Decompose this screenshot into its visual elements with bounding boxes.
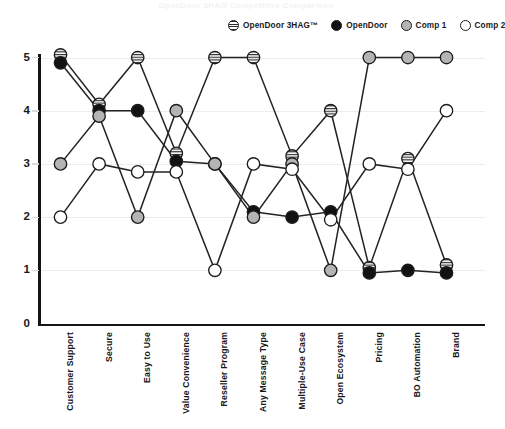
- data-point[interactable]: [247, 211, 259, 223]
- x-axis-tick-label: Open Ecosystem: [335, 332, 345, 405]
- data-point[interactable]: [363, 158, 375, 170]
- data-point[interactable]: [132, 211, 144, 223]
- x-axis-tick-label: Multiple-Use Case: [297, 332, 307, 409]
- data-point[interactable]: [209, 264, 221, 276]
- data-point[interactable]: [402, 51, 414, 63]
- x-axis-tick-label: Easy to Use: [142, 332, 152, 383]
- data-point[interactable]: [363, 267, 375, 279]
- data-point[interactable]: [440, 105, 452, 117]
- data-point[interactable]: [402, 264, 414, 276]
- data-point[interactable]: [325, 264, 337, 276]
- data-point[interactable]: [54, 158, 66, 170]
- x-axis-tick-label: Customer Support: [65, 332, 75, 411]
- data-point[interactable]: [132, 166, 144, 178]
- x-axis-tick-label: Secure: [104, 332, 114, 362]
- data-point[interactable]: [54, 57, 66, 69]
- data-point[interactable]: [247, 158, 259, 170]
- data-point[interactable]: [170, 166, 182, 178]
- x-axis-tick-label: Any Message Type: [258, 332, 268, 412]
- data-point[interactable]: [363, 51, 375, 63]
- data-point[interactable]: [325, 105, 337, 117]
- data-point[interactable]: [440, 267, 452, 279]
- data-point[interactable]: [325, 214, 337, 226]
- data-point[interactable]: [247, 51, 259, 63]
- data-point[interactable]: [93, 158, 105, 170]
- x-axis-tick-label: BO Automation: [412, 332, 422, 397]
- data-point[interactable]: [209, 51, 221, 63]
- data-point[interactable]: [93, 110, 105, 122]
- data-point[interactable]: [170, 105, 182, 117]
- data-point[interactable]: [132, 51, 144, 63]
- x-axis-tick-label: Reseller Program: [219, 332, 229, 406]
- data-point[interactable]: [286, 211, 298, 223]
- data-point[interactable]: [402, 163, 414, 175]
- x-axis-tick-label: Pricing: [374, 332, 384, 363]
- data-point[interactable]: [286, 163, 298, 175]
- data-point[interactable]: [209, 158, 221, 170]
- x-axis-tick-label: Value Convenience: [181, 332, 191, 414]
- data-point[interactable]: [132, 105, 144, 117]
- data-point[interactable]: [440, 51, 452, 63]
- x-axis-tick-label: Brand: [451, 332, 461, 358]
- data-point[interactable]: [54, 211, 66, 223]
- series-line-4: [61, 111, 447, 271]
